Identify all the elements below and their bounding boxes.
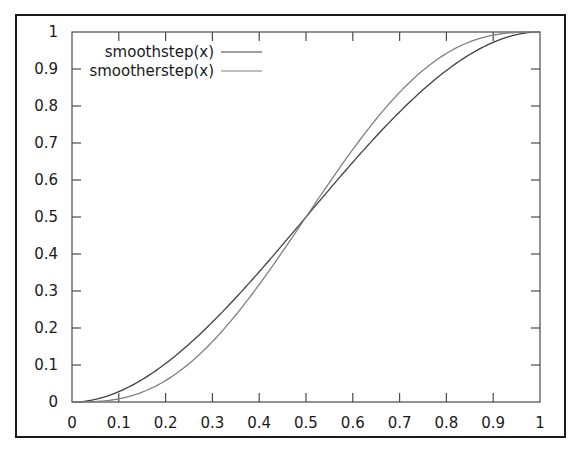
y-tick-label: 1 (48, 23, 58, 41)
y-tick-label: 0.4 (34, 245, 58, 263)
line-chart: 00.10.20.30.40.50.60.70.80.91 00.10.20.3… (0, 0, 580, 459)
legend-label-smootherstep: smootherstep(x) (89, 62, 214, 80)
x-axis-ticks: 00.10.20.30.40.50.60.70.80.91 (67, 32, 545, 432)
x-tick-label: 0.6 (341, 414, 365, 432)
x-tick-label: 1 (535, 414, 545, 432)
x-tick-label: 0.5 (294, 414, 318, 432)
y-tick-label: 0 (48, 393, 58, 411)
x-tick-label: 0.4 (247, 414, 271, 432)
x-tick-label: 0.8 (434, 414, 458, 432)
y-tick-label: 0.3 (34, 282, 58, 300)
x-tick-label: 0.3 (200, 414, 224, 432)
x-tick-label: 0.1 (107, 414, 131, 432)
legend: smoothstep(x) smootherstep(x) (89, 43, 262, 80)
y-tick-label: 0.1 (34, 356, 58, 374)
x-tick-label: 0.9 (481, 414, 505, 432)
y-tick-label: 0.6 (34, 171, 58, 189)
y-tick-label: 0.9 (34, 60, 58, 78)
y-tick-label: 0.8 (34, 97, 58, 115)
x-tick-label: 0.7 (388, 414, 412, 432)
series-lines (72, 32, 540, 402)
x-tick-label: 0.2 (154, 414, 178, 432)
y-tick-label: 0.7 (34, 134, 58, 152)
y-tick-label: 0.5 (34, 208, 58, 226)
y-axis-ticks: 00.10.20.30.40.50.60.70.80.91 (34, 23, 540, 411)
y-tick-label: 0.2 (34, 319, 58, 337)
legend-label-smoothstep: smoothstep(x) (105, 43, 214, 61)
series-line-smootherstep (72, 32, 540, 402)
x-tick-label: 0 (67, 414, 77, 432)
